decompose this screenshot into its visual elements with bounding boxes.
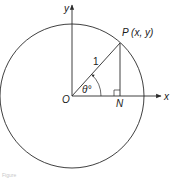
foot-n-label: N xyxy=(116,98,124,109)
radius-label: 1 xyxy=(93,56,99,67)
unit-circle-diagram: y x O P (x, y) N 1 θ° Figure xyxy=(0,0,173,179)
figure-caption: Figure xyxy=(2,172,16,178)
y-axis-label: y xyxy=(63,3,70,14)
origin-label: O xyxy=(62,94,70,105)
x-axis-label: x xyxy=(163,91,170,102)
angle-arc xyxy=(92,75,102,97)
radius-op xyxy=(72,43,120,96)
point-p-label: P (x, y) xyxy=(122,27,153,38)
angle-label: θ° xyxy=(82,84,91,95)
right-angle-mark xyxy=(114,90,120,96)
